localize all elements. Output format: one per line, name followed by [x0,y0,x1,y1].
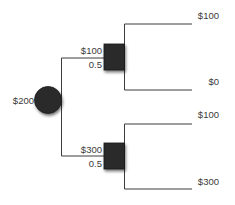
lower-node-value-label: $300 [81,144,102,155]
upper-chance-node [104,44,125,70]
root-connectors [62,58,105,156]
outcome-label-1: $100 [198,10,219,21]
outcome-label-3: $100 [198,109,219,120]
upper-outcome-connectors [125,24,193,90]
root-decision-node [35,87,62,114]
upper-node-probability-label: 0.5 [89,59,102,70]
outcome-label-2: $0 [208,76,219,87]
outcome-label-4: $300 [198,176,219,187]
lower-node-probability-label: 0.5 [89,158,102,169]
upper-node-value-label: $100 [81,45,102,56]
root-value-label: $200 [13,95,34,106]
decision-tree-diagram: $200 $100 0.5 $300 0.5 $100 $0 $100 $300 [0,0,235,205]
lower-chance-node [104,143,125,169]
lower-outcome-connectors [125,124,193,189]
